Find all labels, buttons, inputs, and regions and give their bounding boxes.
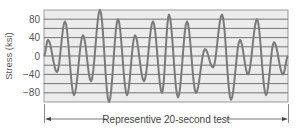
y-axis-ticks: 80400−40−80 — [23, 14, 40, 99]
y-tick-label: 0 — [34, 51, 40, 62]
arrow-right-icon — [282, 117, 288, 121]
y-tick-label: −80 — [23, 87, 40, 98]
y-tick-label: 80 — [29, 14, 41, 25]
duration-indicator: Representive 20-second test — [45, 104, 289, 125]
stress-chart: 80400−40−80 Stress (ksi) Representive 20… — [0, 0, 298, 139]
y-axis-label: Stress (ksi) — [3, 32, 14, 80]
y-tick-label: −40 — [23, 69, 40, 80]
duration-label: Representive 20-second test — [102, 114, 230, 125]
y-tick-label: 40 — [29, 32, 41, 43]
arrow-left-icon — [45, 117, 51, 121]
